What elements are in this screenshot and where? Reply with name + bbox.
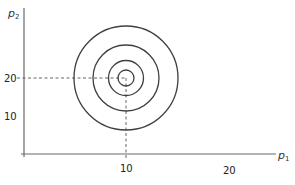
y-axis-label: p2 bbox=[7, 7, 19, 21]
diagram-canvas: p2 p1 20 10 10 20 bbox=[0, 0, 295, 185]
y-tick-10: 10 bbox=[4, 111, 17, 122]
x-axis-label: p1 bbox=[277, 149, 289, 163]
x-tick-20: 20 bbox=[223, 165, 236, 176]
x-tick-10: 10 bbox=[120, 163, 133, 174]
y-tick-20: 20 bbox=[4, 73, 17, 84]
